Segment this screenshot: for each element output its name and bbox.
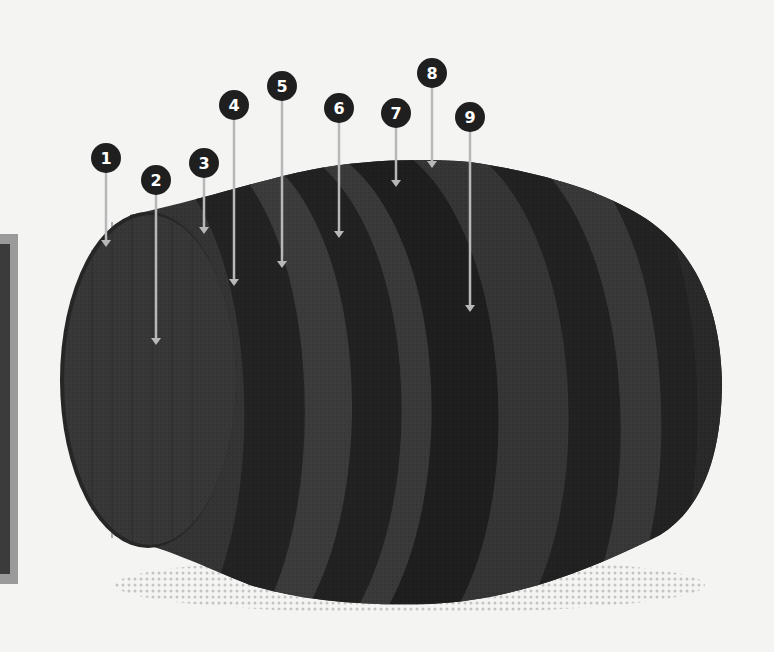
callout-1: 1 (91, 143, 121, 173)
callout-6: 6 (324, 93, 354, 123)
callout-2: 2 (141, 165, 171, 195)
callout-3: 3 (189, 148, 219, 178)
callout-9: 9 (455, 102, 485, 132)
barrel-illustration (0, 0, 774, 652)
callout-5: 5 (267, 71, 297, 101)
callout-4: 4 (219, 90, 249, 120)
barrel-diagram: 123456789 (0, 0, 774, 652)
callout-8: 8 (417, 58, 447, 88)
callout-7: 7 (381, 98, 411, 128)
